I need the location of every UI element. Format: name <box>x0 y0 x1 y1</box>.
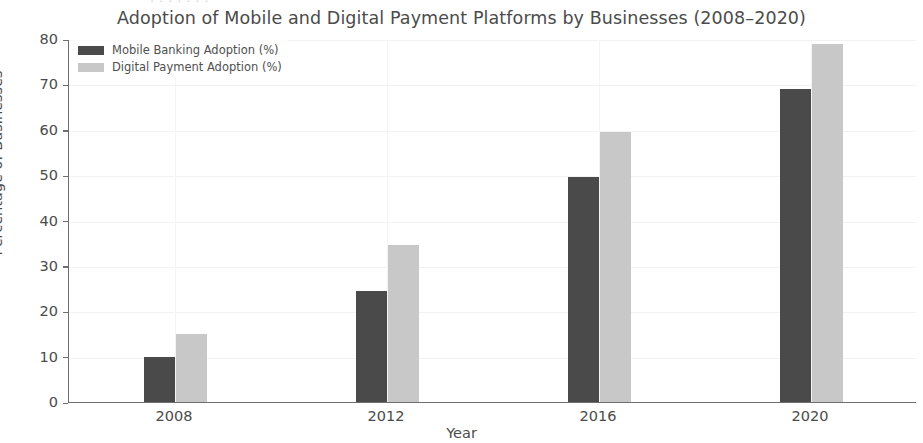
bar <box>388 245 419 402</box>
top-clipped-text-artifact: · · · · · · · <box>150 0 550 6</box>
legend-swatch-icon <box>78 63 104 72</box>
y-tick-mark <box>63 266 68 267</box>
y-tick-mark <box>63 312 68 313</box>
bar <box>144 357 175 402</box>
y-tick-label: 60 <box>2 122 58 138</box>
plot-inner <box>69 40 916 402</box>
y-tick-mark <box>63 176 68 177</box>
x-tick-label: 2012 <box>326 408 446 424</box>
bar <box>780 89 811 402</box>
legend-item: Digital Payment Adoption (%) <box>78 60 282 74</box>
legend-label: Mobile Banking Adoption (%) <box>112 43 279 57</box>
y-tick-mark <box>63 221 68 222</box>
y-tick-label: 20 <box>2 303 58 319</box>
chart-legend: Mobile Banking Adoption (%)Digital Payme… <box>74 40 288 78</box>
bar <box>568 177 599 402</box>
y-tick-mark <box>63 130 68 131</box>
chart-title: Adoption of Mobile and Digital Payment P… <box>0 8 923 28</box>
y-tick-label: 0 <box>2 394 58 410</box>
y-axis-label: Percentage of Businesses <box>0 0 5 328</box>
plot-area <box>68 40 916 403</box>
y-tick-label: 40 <box>2 213 58 229</box>
legend-swatch-icon <box>78 46 104 55</box>
y-tick-label: 50 <box>2 167 58 183</box>
legend-item: Mobile Banking Adoption (%) <box>78 43 282 57</box>
y-tick-mark <box>63 357 68 358</box>
bar <box>356 291 387 402</box>
x-axis-label: Year <box>0 425 923 441</box>
y-tick-label: 80 <box>2 31 58 47</box>
y-tick-mark <box>63 403 68 404</box>
x-tick-label: 2020 <box>750 408 870 424</box>
y-tick-label: 10 <box>2 349 58 365</box>
x-tick-label: 2016 <box>538 408 658 424</box>
gridline-horizontal <box>69 85 916 86</box>
bar <box>812 44 843 402</box>
y-tick-mark <box>63 85 68 86</box>
legend-label: Digital Payment Adoption (%) <box>112 60 282 74</box>
y-tick-mark <box>63 40 68 41</box>
y-tick-label: 70 <box>2 76 58 92</box>
y-tick-label: 30 <box>2 258 58 274</box>
x-tick-label: 2008 <box>114 408 234 424</box>
bar <box>600 132 631 402</box>
bar <box>176 334 207 402</box>
chart-figure: · · · · · · · Adoption of Mobile and Dig… <box>0 0 923 443</box>
